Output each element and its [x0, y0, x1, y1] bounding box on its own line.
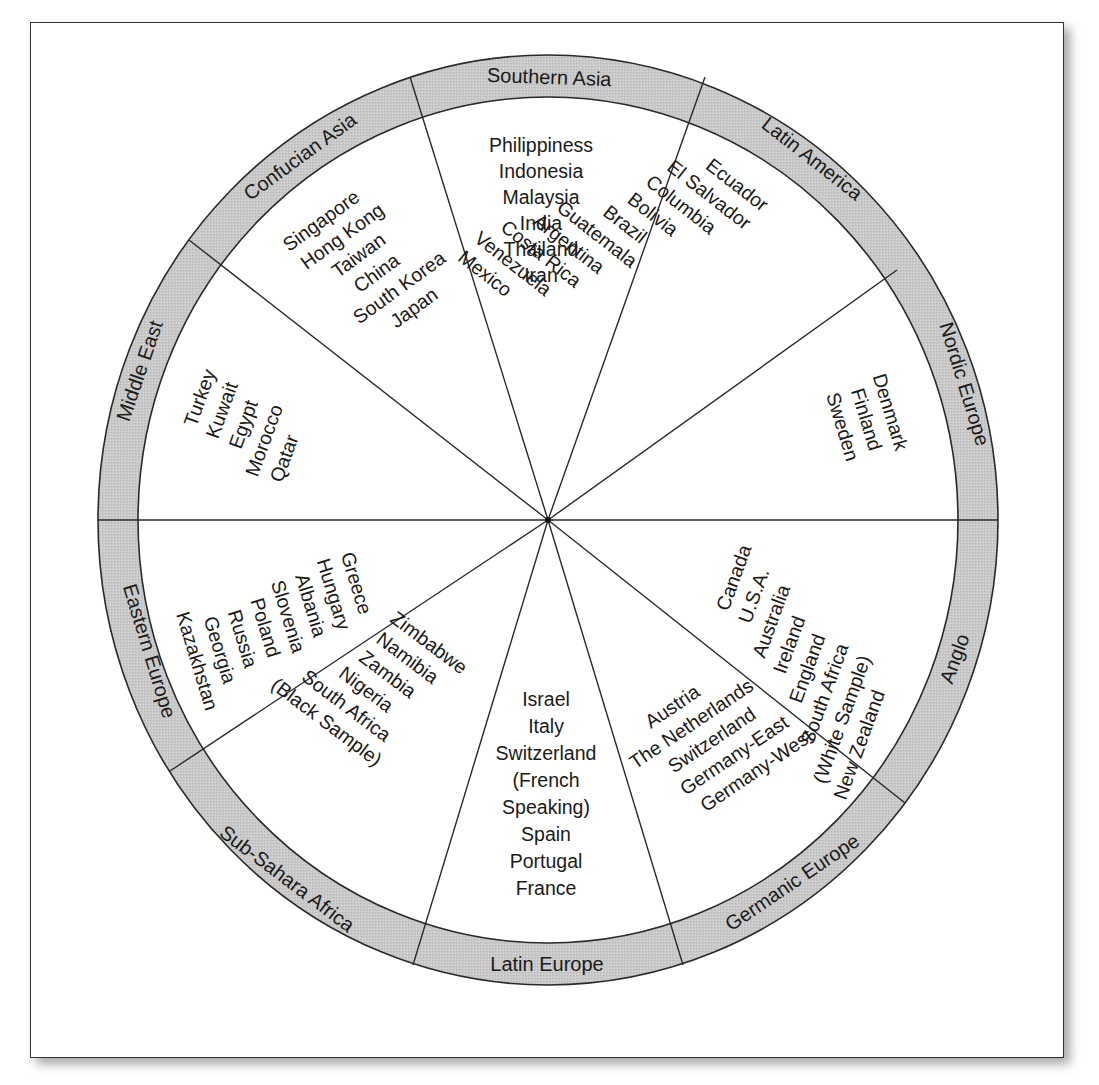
ring-label-latin-europe: Latin Europe [490, 953, 603, 975]
country: Indonesia [499, 160, 584, 182]
ring-label-southern-asia: Southern Asia [487, 64, 613, 90]
cluster-wheel: Southern Asia Latin America Nordic Europ… [0, 0, 1099, 1085]
country: Italy [528, 715, 564, 737]
country: Portugal [510, 850, 583, 872]
country: Speaking) [502, 796, 590, 818]
center-point [545, 517, 551, 523]
country: France [516, 877, 577, 899]
country: Switzerland [496, 742, 597, 764]
country: (French [512, 769, 579, 791]
country: Spain [521, 823, 571, 845]
country: Israel [522, 688, 570, 710]
country: Philippiness [489, 134, 593, 156]
